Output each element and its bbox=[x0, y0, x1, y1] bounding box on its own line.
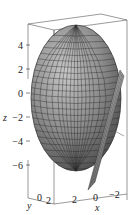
x-tick-2: 2 bbox=[72, 194, 77, 205]
z-axis-label: z bbox=[2, 112, 7, 123]
x-tick-minus-2: −2 bbox=[109, 189, 120, 200]
plot-3d: 4 2 0 −2 −4 −6 z 0 2 y 2 0 −2 x bbox=[0, 0, 134, 215]
z-tick-minus-6: −6 bbox=[12, 160, 23, 171]
z-tick-0: 0 bbox=[18, 88, 23, 99]
z-tick-2: 2 bbox=[18, 64, 23, 75]
y-tick-2: 2 bbox=[46, 195, 51, 206]
z-tick-minus-2: −2 bbox=[12, 112, 23, 123]
x-axis-label: x bbox=[94, 202, 100, 213]
z-tick-4: 4 bbox=[18, 40, 23, 51]
z-tick-minus-4: −4 bbox=[12, 136, 23, 147]
y-axis-label: y bbox=[26, 200, 32, 211]
y-tick-0: 0 bbox=[37, 192, 42, 203]
